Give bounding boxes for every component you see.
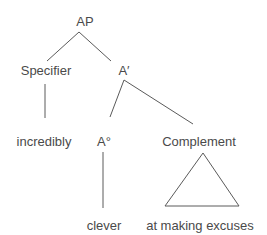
edge-abar-complement bbox=[124, 80, 193, 124]
node-a-bar: A′ bbox=[118, 64, 129, 77]
edge-ap-abar bbox=[79, 32, 111, 61]
node-a-head: A° bbox=[97, 135, 111, 148]
edge-abar-head bbox=[110, 80, 124, 117]
node-ap: AP bbox=[76, 15, 93, 28]
node-incredibly: incredibly bbox=[17, 135, 72, 148]
node-complement: Complement bbox=[162, 135, 236, 148]
node-clever: clever bbox=[87, 219, 122, 232]
tree-edges bbox=[0, 0, 267, 235]
node-complement-phrase: at making excuses bbox=[146, 219, 254, 232]
complement-triangle bbox=[165, 153, 239, 206]
edge-ap-specifier bbox=[47, 32, 79, 61]
node-specifier: Specifier bbox=[21, 64, 72, 77]
